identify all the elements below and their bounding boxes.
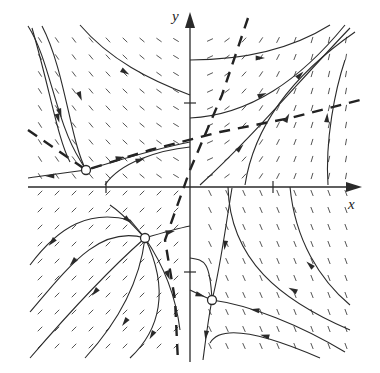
traj-lr-5	[290, 187, 350, 305]
field-dash	[89, 208, 94, 213]
field-dash	[123, 259, 128, 264]
field-dash	[224, 106, 229, 110]
trajectory-arrow-icon	[49, 237, 57, 246]
field-dash	[106, 140, 110, 145]
field-dash	[294, 190, 296, 196]
field-dash	[38, 208, 43, 213]
axes	[28, 12, 362, 362]
field-dash	[174, 276, 179, 281]
field-dash	[140, 327, 145, 332]
field-dash	[294, 224, 296, 230]
field-dash	[55, 191, 60, 196]
field-dash	[345, 258, 347, 264]
trajectory-arrow-icon	[256, 55, 265, 60]
field-dash	[123, 208, 128, 213]
traj-sep-upper	[86, 142, 190, 170]
field-dash	[156, 89, 161, 93]
field-dash	[345, 122, 346, 128]
field-dash	[55, 293, 60, 298]
nullcline-shallow	[28, 100, 360, 170]
field-dash	[106, 89, 110, 94]
field-dash	[260, 275, 263, 281]
field-dash	[277, 275, 279, 281]
field-dash	[311, 139, 313, 145]
field-dash	[38, 156, 41, 161]
field-dash	[173, 123, 178, 126]
traj-ll-4	[85, 238, 145, 358]
field-dash	[328, 156, 329, 162]
field-dash	[224, 123, 229, 127]
field-dash	[173, 174, 178, 177]
field-dash	[294, 156, 296, 162]
field-dash	[345, 207, 347, 213]
field-dash	[277, 292, 279, 298]
field-dash	[311, 88, 313, 94]
field-dash	[207, 39, 213, 42]
field-dash	[106, 276, 111, 281]
field-dash	[277, 173, 280, 179]
field-dash	[277, 309, 279, 315]
field-dash	[55, 37, 59, 42]
field-dash	[38, 276, 43, 281]
field-dash	[311, 190, 313, 196]
field-dash	[209, 224, 212, 230]
field-dash	[72, 293, 77, 298]
field-dash	[226, 326, 229, 332]
field-dash	[277, 343, 279, 349]
field-dash	[260, 190, 263, 196]
field-dash	[38, 225, 43, 230]
field-dash	[157, 242, 162, 247]
field-dash	[72, 105, 76, 110]
field-dash	[311, 224, 313, 230]
field-dash	[156, 157, 161, 161]
field-dash	[157, 191, 162, 196]
field-dash	[89, 174, 93, 179]
field-dash	[123, 242, 128, 247]
traj-ur-4	[245, 32, 355, 185]
field-dash	[277, 207, 279, 213]
field-dash	[328, 190, 330, 196]
field-dash	[72, 88, 76, 93]
field-dash	[156, 140, 161, 144]
field-dash	[328, 207, 330, 213]
field-dash	[123, 327, 128, 332]
traj-lr-7	[190, 258, 212, 300]
field-dash	[38, 327, 43, 332]
field-dash	[38, 310, 43, 315]
field-dash	[38, 191, 43, 196]
field-dash	[140, 276, 145, 281]
field-dash	[140, 89, 145, 93]
field-dash	[72, 242, 77, 247]
field-dash	[345, 139, 346, 145]
trajectory-arrow-icon	[135, 159, 145, 164]
field-dash	[72, 208, 77, 213]
field-dash	[157, 344, 162, 349]
field-dash	[345, 343, 347, 349]
field-dash	[173, 38, 178, 41]
field-dash	[243, 343, 246, 349]
field-dash	[55, 139, 59, 144]
field-dash	[277, 139, 280, 145]
field-dash	[209, 207, 212, 213]
field-dash	[123, 191, 128, 196]
field-dash	[311, 122, 313, 128]
field-dash	[173, 106, 178, 109]
traj-ul-1	[80, 25, 190, 95]
field-dash	[207, 107, 213, 110]
field-dash	[89, 55, 93, 60]
field-dash	[259, 105, 263, 110]
field-dash	[38, 37, 41, 42]
field-dash	[38, 242, 43, 247]
field-dash	[123, 174, 128, 178]
field-dash	[156, 72, 161, 76]
field-dash	[277, 122, 280, 128]
field-dash	[328, 275, 330, 281]
field-dash	[106, 55, 110, 60]
field-dash	[157, 225, 162, 230]
field-dash	[55, 71, 59, 76]
traj-ur-1	[190, 25, 330, 60]
field-dash	[174, 242, 179, 247]
field-dash	[328, 292, 330, 298]
trajectory-arrow-icon	[324, 113, 329, 122]
field-dash	[72, 173, 76, 178]
